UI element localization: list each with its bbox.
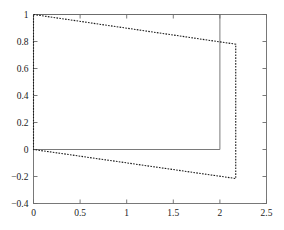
x-tick-label: 1 — [124, 208, 129, 218]
x-tick-label: 2.5 — [261, 208, 273, 218]
y-tick-label: −0.4 — [11, 199, 28, 209]
x-tick-label: 0.5 — [74, 208, 86, 218]
y-tick-label: 0.4 — [17, 91, 29, 101]
y-tick-label: 1 — [24, 10, 29, 20]
chart-figure: 00.511.522.5 −0.4−0.200.20.40.60.81 — [0, 0, 284, 230]
y-tick-label: 0.6 — [17, 64, 29, 74]
y-tick-label: 0.2 — [17, 118, 29, 128]
figure-background — [0, 0, 284, 230]
y-tick-label: −0.2 — [11, 172, 28, 182]
plot-canvas: 00.511.522.5 −0.4−0.200.20.40.60.81 — [0, 0, 284, 230]
x-tick-label: 0 — [31, 208, 36, 218]
x-tick-label: 1.5 — [167, 208, 179, 218]
x-tick-label: 2 — [218, 208, 223, 218]
y-tick-label: 0 — [24, 145, 29, 155]
y-tick-label: 0.8 — [17, 37, 29, 47]
